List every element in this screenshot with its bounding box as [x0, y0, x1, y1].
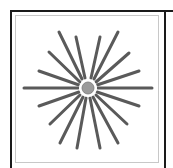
spoke [39, 92, 79, 106]
spoke [97, 92, 139, 106]
radial-burst-icon [0, 0, 173, 168]
hub-circle [82, 82, 94, 94]
spoke [97, 71, 139, 85]
spoke [39, 71, 79, 85]
